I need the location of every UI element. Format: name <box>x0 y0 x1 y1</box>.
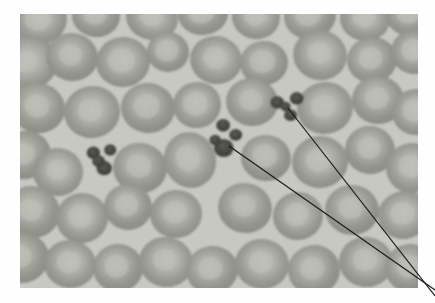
film-grain-overlay <box>20 14 418 288</box>
figure-root <box>0 0 435 303</box>
micrograph-canvas <box>20 14 418 288</box>
micrograph-panel <box>20 14 418 288</box>
